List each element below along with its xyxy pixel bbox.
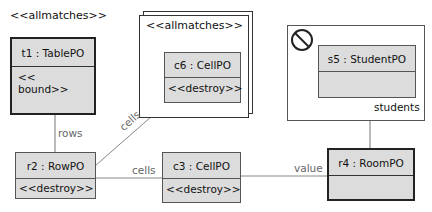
forbidden-icon: [290, 28, 314, 52]
object-title: t1 : TablePO: [12, 39, 94, 67]
object-title: r2 : RowPO: [16, 153, 95, 179]
object-title: c3 : CellPO: [163, 153, 240, 179]
object-stereotype: <<destroy>>: [16, 179, 95, 197]
allmatches-stereotype-center: <<allmatches>>: [146, 19, 243, 32]
allmatches-stereotype-left: <<allmatches>>: [10, 9, 107, 22]
object-c3-cellpo[interactable]: c3 : CellPO <<destroy>>: [162, 152, 241, 203]
object-stereotype: <<destroy>>: [165, 78, 240, 98]
object-title: s5 : StudentPO: [319, 46, 415, 72]
object-r2-rowpo[interactable]: r2 : RowPO <<destroy>>: [15, 152, 96, 199]
link-label-students: students: [374, 101, 420, 113]
object-c6-cellpo[interactable]: c6 : CellPO <<destroy>>: [164, 52, 241, 103]
object-body: [329, 176, 413, 184]
link-label-cells-c3: cells: [132, 164, 156, 176]
object-r4-roompo[interactable]: r4 : RoomPO: [327, 148, 415, 201]
object-body: [319, 72, 415, 80]
object-title: r4 : RoomPO: [329, 150, 413, 176]
link-label-rows: rows: [58, 127, 83, 139]
object-stereotype: <<destroy>>: [163, 179, 240, 199]
object-stereotype: << bound>>: [12, 67, 94, 99]
link-label-value: value: [294, 162, 323, 174]
object-s5-studentpo[interactable]: s5 : StudentPO: [318, 45, 416, 98]
object-t1-tablepo[interactable]: t1 : TablePO << bound>>: [10, 37, 96, 115]
object-title: c6 : CellPO: [165, 53, 240, 78]
